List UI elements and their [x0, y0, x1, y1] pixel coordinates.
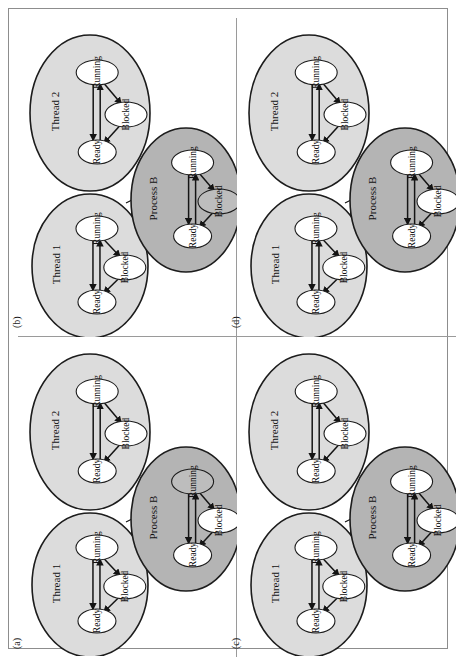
state-node-label: Running	[92, 531, 102, 564]
panel-a-inner: Thread 2RunningReadyBlockedThread 1Runni…	[18, 337, 236, 657]
state-node-label: Ready	[92, 290, 102, 315]
group-label: Process B	[366, 496, 378, 540]
group-thread-1: Thread 1RunningReadyBlocked	[32, 513, 148, 656]
group-thread-1: Thread 1RunningReadyBlocked	[251, 513, 367, 656]
panel-grid: Thread 2RunningReadyBlockedThread 1Runni…	[18, 18, 456, 657]
state-node-label: Ready	[92, 140, 102, 165]
state-node-label: Running	[92, 212, 102, 245]
state-node-label: Ready	[188, 543, 198, 568]
group-thread-1: Thread 1RunningReadyBlocked	[251, 194, 367, 337]
state-node-label: Blocked	[433, 504, 443, 536]
state-node-label: Running	[188, 146, 198, 179]
panel-a-label: (a)	[11, 638, 22, 649]
panel-c-label: (c)	[230, 638, 241, 649]
state-node-label: Running	[407, 146, 417, 179]
group-label: Process B	[147, 177, 159, 221]
state-node-label: Running	[311, 375, 321, 408]
state-diagram-a: Thread 2RunningReadyBlockedThread 1Runni…	[18, 337, 237, 656]
panel-b-diagram: Thread 2RunningReadyBlockedThread 1Runni…	[18, 18, 236, 336]
state-node-label: Running	[311, 212, 321, 245]
state-node-label: Blocked	[214, 504, 224, 536]
state-node-label: Blocked	[120, 251, 130, 283]
state-diagram-d: Thread 2RunningReadyBlockedThread 1Runni…	[237, 18, 456, 337]
state-node-label: Running	[92, 375, 102, 408]
state-node-label: Blocked	[339, 570, 349, 602]
panel-d-diagram: Thread 2RunningReadyBlockedThread 1Runni…	[237, 18, 456, 336]
panel-d-label: (d)	[230, 316, 241, 328]
group-label: Process B	[366, 177, 378, 221]
state-node-label: Ready	[311, 290, 321, 315]
group-thread-2: Thread 2RunningReadyBlocked	[30, 35, 150, 191]
panel-d-inner: Thread 2RunningReadyBlockedThread 1Runni…	[237, 18, 456, 336]
state-diagram-c: Thread 2RunningReadyBlockedThread 1Runni…	[237, 337, 456, 656]
group-process-b: Process BRunningReadyBlocked	[131, 447, 237, 591]
state-node-label: Running	[311, 56, 321, 89]
figure-frame: Thread 2RunningReadyBlockedThread 1Runni…	[8, 8, 448, 649]
group-label: Thread 1	[50, 245, 62, 284]
state-node-label: Ready	[311, 609, 321, 634]
group-label: Thread 2	[268, 92, 280, 131]
state-node-label: Ready	[407, 543, 417, 568]
state-node-label: Ready	[311, 459, 321, 484]
group-process-b: Process BRunningReadyBlocked	[131, 128, 237, 272]
group-process-b: Process BRunningReadyBlocked	[350, 447, 456, 591]
group-process-b: Process BRunningReadyBlocked	[350, 128, 456, 272]
panel-c-inner: Thread 2RunningReadyBlockedThread 1Runni…	[237, 337, 456, 657]
state-node-label: Blocked	[340, 98, 350, 130]
state-node-label: Ready	[92, 609, 102, 634]
figure-page: Thread 2RunningReadyBlockedThread 1Runni…	[0, 0, 457, 658]
group-label: Thread 2	[268, 411, 280, 450]
state-node-label: Blocked	[339, 251, 349, 283]
state-node-label: Running	[407, 465, 417, 498]
group-thread-1: Thread 1RunningReadyBlocked	[32, 194, 148, 337]
panel-a: Thread 2RunningReadyBlockedThread 1Runni…	[18, 337, 237, 657]
state-node-label: Blocked	[433, 185, 443, 217]
state-node-label: Running	[92, 56, 102, 89]
panel-c-diagram: Thread 2RunningReadyBlockedThread 1Runni…	[237, 337, 456, 657]
group-thread-2: Thread 2RunningReadyBlocked	[30, 354, 150, 510]
group-label: Thread 1	[269, 564, 281, 603]
group-label: Thread 2	[49, 411, 61, 450]
state-node-label: Blocked	[120, 570, 130, 602]
panel-a-diagram: Thread 2RunningReadyBlockedThread 1Runni…	[18, 337, 236, 657]
state-node-label: Running	[188, 465, 198, 498]
state-node-label: Running	[311, 531, 321, 564]
panel-b-inner: Thread 2RunningReadyBlockedThread 1Runni…	[18, 18, 236, 336]
panel-c: Thread 2RunningReadyBlockedThread 1Runni…	[237, 337, 456, 657]
state-diagram-b: Thread 2RunningReadyBlockedThread 1Runni…	[18, 18, 237, 337]
state-node-label: Blocked	[340, 417, 350, 449]
state-node-label: Ready	[407, 224, 417, 249]
group-label: Process B	[147, 496, 159, 540]
panel-b: Thread 2RunningReadyBlockedThread 1Runni…	[18, 18, 237, 337]
state-node-label: Blocked	[214, 185, 224, 217]
group-label: Thread 1	[50, 564, 62, 603]
panel-b-label: (b)	[11, 316, 22, 328]
panel-d: Thread 2RunningReadyBlockedThread 1Runni…	[237, 18, 456, 337]
state-node-label: Ready	[188, 224, 198, 249]
state-node-label: Blocked	[121, 98, 131, 130]
state-node-label: Ready	[311, 140, 321, 165]
group-label: Thread 1	[269, 245, 281, 284]
group-thread-2: Thread 2RunningReadyBlocked	[249, 354, 369, 510]
group-thread-2: Thread 2RunningReadyBlocked	[249, 35, 369, 191]
state-node-label: Ready	[92, 459, 102, 484]
group-label: Thread 2	[49, 92, 61, 131]
state-node-label: Blocked	[121, 417, 131, 449]
